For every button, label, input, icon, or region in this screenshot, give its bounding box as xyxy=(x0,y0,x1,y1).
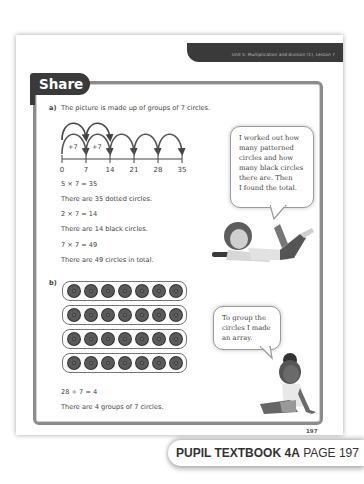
sentence-line: There are 14 black circles. xyxy=(61,225,148,233)
tick-label: 0 xyxy=(60,166,64,174)
array-row xyxy=(62,329,187,349)
speech-bubble-b: To group the circles I made an array. xyxy=(213,306,281,350)
circle-icon xyxy=(152,356,166,370)
circle-icon xyxy=(84,308,98,322)
circle-icon xyxy=(101,308,115,322)
sentence-line: There are 35 dotted circles. xyxy=(61,195,152,203)
circle-icon xyxy=(169,356,183,370)
circle-array xyxy=(62,281,187,377)
part-a-intro: The picture is made up of groups of 7 ci… xyxy=(61,104,210,112)
bubble-line: I worked out how xyxy=(239,133,305,143)
bubble-line: I found the total. xyxy=(239,183,305,193)
tick-label: 35 xyxy=(178,166,187,174)
circle-icon xyxy=(152,284,166,298)
tick-label: 28 xyxy=(154,166,163,174)
circle-icon xyxy=(169,284,183,298)
bubble-line: many black circles xyxy=(239,163,305,173)
page-label: PAGE 197 xyxy=(303,446,359,460)
circle-icon xyxy=(67,308,81,322)
share-tab: Share xyxy=(30,73,90,95)
circle-icon xyxy=(84,284,98,298)
sentence-line: There are 4 groups of 7 circles. xyxy=(61,403,164,411)
girl-sitting-illustration xyxy=(250,352,322,418)
circle-icon xyxy=(169,308,183,322)
page-number: 197 xyxy=(306,428,317,434)
equation-line: 5 × 7 = 35 xyxy=(61,180,97,188)
equation-line: 28 ÷ 7 = 4 xyxy=(61,388,97,396)
unit-banner: Unit 5: Multiplication and division (1),… xyxy=(187,43,343,62)
circle-icon xyxy=(101,284,115,298)
circle-icon xyxy=(135,332,149,346)
array-row xyxy=(62,281,187,301)
jump-label: +7 xyxy=(92,143,102,151)
speech-bubble-a: I worked out how many patterned circles … xyxy=(230,126,314,208)
footer-page-label: PUPIL TEXTBOOK 4A PAGE 197 xyxy=(168,440,364,466)
sentence-line: There are 49 circles in total. xyxy=(61,256,154,264)
circle-icon xyxy=(118,284,132,298)
circle-icon xyxy=(101,332,115,346)
bubble-line: there are. Then xyxy=(239,173,305,183)
book-label: PUPIL TEXTBOOK 4A xyxy=(176,446,300,460)
circle-icon xyxy=(135,356,149,370)
tick-label: 21 xyxy=(130,166,139,174)
number-line: +7 +7 0 7 14 21 28 35 xyxy=(56,114,216,189)
circle-icon xyxy=(84,332,98,346)
circle-icon xyxy=(152,308,166,322)
girl-lying-illustration xyxy=(208,214,320,270)
bubble-line: circles I made xyxy=(222,323,272,333)
circle-icon xyxy=(101,356,115,370)
tick-label: 14 xyxy=(106,166,115,174)
circle-icon xyxy=(118,356,132,370)
share-tab-stem xyxy=(30,93,35,105)
circle-icon xyxy=(135,284,149,298)
part-b-label: b) xyxy=(49,279,57,287)
circle-icon xyxy=(135,308,149,322)
array-row xyxy=(62,353,187,373)
equation-line: 7 × 7 = 49 xyxy=(61,241,97,249)
circle-icon xyxy=(118,308,132,322)
bubble-line: circles and how xyxy=(239,153,305,163)
circle-icon xyxy=(67,332,81,346)
jump-label: +7 xyxy=(68,143,78,151)
bubble-line: To group the xyxy=(222,313,272,323)
equation-line: 2 × 7 = 14 xyxy=(61,210,97,218)
circle-icon xyxy=(67,356,81,370)
bubble-line: an array. xyxy=(222,333,272,343)
tick-label: 7 xyxy=(84,166,88,174)
circle-icon xyxy=(67,284,81,298)
circle-icon xyxy=(118,332,132,346)
circle-icon xyxy=(169,332,183,346)
bubble-line: many patterned xyxy=(239,143,305,153)
circle-icon xyxy=(84,356,98,370)
part-a-label: a) xyxy=(49,104,56,112)
array-row xyxy=(62,305,187,325)
circle-icon xyxy=(152,332,166,346)
